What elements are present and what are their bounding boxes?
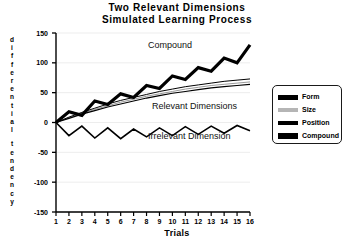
legend-item[interactable]: Size <box>278 104 341 116</box>
y-axis-tick-label: 100 <box>22 59 48 66</box>
y-axis-tick-label: -150 <box>22 209 48 216</box>
legend-item[interactable]: Compound <box>278 130 341 142</box>
legend-label: Size <box>302 106 316 114</box>
legend-swatch <box>278 91 298 103</box>
y-axis-tick-label: -100 <box>22 179 48 186</box>
series-annotation-label: Relevant Dimensions <box>152 101 237 111</box>
x-axis-title: Trials <box>0 228 354 238</box>
legend-swatch <box>278 104 298 116</box>
legend-swatch <box>278 130 298 142</box>
y-axis-tick-label: 150 <box>22 30 48 37</box>
y-axis-tick-label: 0 <box>22 119 48 126</box>
legend: FormSizePositionCompound <box>272 85 342 144</box>
legend-item[interactable]: Form <box>278 91 341 103</box>
legend-label: Position <box>302 119 330 127</box>
x-axis-tick-label: 16 <box>242 218 258 225</box>
legend-item[interactable]: Position <box>278 117 341 129</box>
data-series-group <box>56 45 250 139</box>
y-axis-tick-label: 50 <box>22 89 48 96</box>
legend-swatch <box>278 117 298 129</box>
legend-label: Form <box>302 93 320 101</box>
series-annotation-label: Compound <box>148 40 192 50</box>
chart-container: Two Relevant Dimensions Simulated Learni… <box>0 0 354 245</box>
y-axis-tick-label: -50 <box>22 149 48 156</box>
legend-label: Compound <box>302 132 339 140</box>
series-annotation-label: Irrelevant Dimension <box>148 131 231 141</box>
